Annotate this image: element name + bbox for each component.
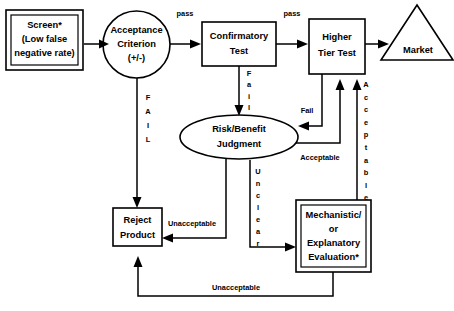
vlabel-char: l <box>257 203 259 212</box>
edge-higher-tier-fail-to-risk-benefit <box>298 74 322 131</box>
vlabel-char: c <box>364 93 368 102</box>
vlabel-char: U <box>255 167 260 176</box>
edge-label-fail-vertical-confirmatory: Fail <box>247 69 252 113</box>
node-market-label: Market <box>403 45 433 55</box>
vlabel-char: i <box>248 92 250 101</box>
node-mechanistic-evaluation-line-1: or <box>329 224 339 234</box>
vlabel-char: e <box>364 193 368 202</box>
vlabel-char: e <box>256 215 260 224</box>
vlabel-char: A <box>145 107 151 116</box>
edge-confirmatory-fail-to-risk-benefit <box>235 66 244 116</box>
node-screen-line-1: (Low false <box>22 34 67 44</box>
node-reject-product[interactable]: Reject Product <box>113 208 162 246</box>
edge-risk-benefit-unacceptable-to-reject <box>162 159 226 243</box>
vlabel-char: L <box>146 135 151 144</box>
node-acceptance-criterion-line-0: Acceptance <box>110 25 162 35</box>
node-higher-tier-test-line-0: Higher <box>322 32 352 42</box>
node-screen-line-2: negative rate) <box>14 48 74 58</box>
edge-acceptance-fail-to-reject <box>133 78 142 208</box>
node-mechanistic-evaluation-line-2: Explanatory <box>307 238 361 248</box>
node-higher-tier-test-line-1: Tier Test <box>318 48 356 58</box>
node-mechanistic-evaluation-line-3: Evaluation* <box>308 252 359 262</box>
node-screen-line-0: Screen* <box>27 20 62 30</box>
vlabel-char: F <box>247 69 252 78</box>
node-confirmatory-test-line-1: Test <box>230 46 248 56</box>
node-mechanistic-evaluation-line-0: Mechanistic/ <box>306 210 362 220</box>
edge-label-acceptable-horizontal: Acceptable <box>300 153 339 162</box>
vlabel-char: r <box>257 239 260 248</box>
vlabel-char: b <box>364 168 369 177</box>
node-reject-product-line-1: Product <box>120 230 155 240</box>
vlabel-char: e <box>364 118 368 127</box>
vlabel-char: l <box>248 103 250 112</box>
vlabel-char: a <box>256 227 261 236</box>
edge-screen-to-acceptance <box>84 40 109 49</box>
node-acceptance-criterion-line-1: Criterion <box>117 39 156 49</box>
edge-label-acceptable-vertical: Acceptable <box>363 80 369 202</box>
node-higher-tier-test[interactable]: Higher Tier Test <box>309 19 365 74</box>
edge-confirmatory-to-higher-tier <box>276 40 308 49</box>
node-screen[interactable]: Screen* (Low false negative rate) <box>6 10 83 70</box>
vlabel-char: A <box>363 80 369 89</box>
node-acceptance-criterion-line-2: (+/-) <box>128 53 145 63</box>
node-mechanistic-evaluation[interactable]: Mechanistic/ or Explanatory Evaluation* <box>296 200 371 272</box>
vlabel-char: p <box>364 130 369 139</box>
node-reject-product-line-0: Reject <box>124 215 152 225</box>
node-risk-benefit-judgment[interactable]: Risk/Benefit Judgment <box>180 115 298 159</box>
edge-label-unacceptable-bottom: Unacceptable <box>212 283 260 292</box>
vlabel-char: t <box>365 143 368 152</box>
vlabel-char: a <box>247 80 252 89</box>
node-acceptance-criterion[interactable]: Acceptance Criterion (+/-) <box>103 11 170 78</box>
edge-acceptance-to-confirmatory <box>170 40 201 49</box>
node-market[interactable]: Market <box>381 5 453 60</box>
node-confirmatory-test-line-0: Confirmatory <box>210 31 269 41</box>
edge-label-unacceptable-mid: Unacceptable <box>168 219 216 228</box>
edge-higher-tier-to-market <box>365 40 389 49</box>
edge-label-fail-vertical-left: FAIL <box>145 93 151 144</box>
vlabel-char: F <box>146 93 151 102</box>
edge-label-pass-1: pass <box>177 9 194 18</box>
node-risk-benefit-judgment-line-1: Judgment <box>217 139 261 149</box>
vlabel-char: n <box>256 179 261 188</box>
vlabel-char: c <box>256 191 260 200</box>
edge-label-fail-higher-tier: Fail <box>301 106 314 115</box>
edge-label-unclear-vertical: Unclear <box>255 167 261 248</box>
vlabel-char: c <box>364 105 368 114</box>
edge-mechanistic-acceptable-to-higher-tier <box>353 79 362 200</box>
vlabel-char: l <box>365 181 367 190</box>
node-risk-benefit-judgment-line-0: Risk/Benefit <box>212 124 266 134</box>
edge-label-pass-2: pass <box>284 9 301 18</box>
flowchart-diagram: Screen* (Low false negative rate) Accept… <box>0 0 454 311</box>
vlabel-char: a <box>364 156 369 165</box>
node-confirmatory-test[interactable]: Confirmatory Test <box>202 22 276 66</box>
vlabel-char: I <box>147 121 149 130</box>
